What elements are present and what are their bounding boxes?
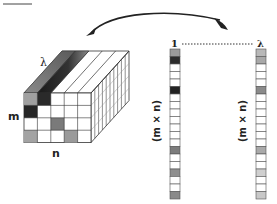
vector-cell <box>170 184 180 192</box>
vector-cell <box>256 79 266 87</box>
vector-cell <box>256 177 266 185</box>
vector-cell <box>256 132 266 140</box>
vector-cell <box>170 57 180 65</box>
vector-cell <box>256 49 266 57</box>
vector-cell <box>256 117 266 125</box>
vector-cell <box>256 169 266 177</box>
right-pixel-vector <box>256 49 266 199</box>
vector-cell <box>256 87 266 95</box>
cube-cols-label: n <box>52 147 60 160</box>
left-pixel-vector <box>170 49 180 199</box>
vector-cell <box>170 109 180 117</box>
left-vector-size-label: (m × n) <box>151 100 162 142</box>
vector-cell <box>170 64 180 72</box>
vector-cell <box>170 94 180 102</box>
right-vector-label: λ <box>257 38 264 49</box>
vector-cell <box>256 64 266 72</box>
vector-cell <box>170 177 180 185</box>
vector-cell <box>256 147 266 155</box>
vector-cell <box>256 139 266 147</box>
vector-cell <box>256 102 266 110</box>
vector-cell <box>256 184 266 192</box>
vector-cell <box>256 162 266 170</box>
vector-cell <box>256 109 266 117</box>
cube-depth-label: λ <box>40 56 47 69</box>
vector-cell <box>170 192 180 200</box>
transform-arrow <box>86 13 228 36</box>
vector-cell <box>170 49 180 57</box>
vector-cell <box>256 154 266 162</box>
cube-rows-label: m <box>8 110 19 123</box>
vector-cell <box>170 169 180 177</box>
vector-cell <box>256 94 266 102</box>
vector-cell <box>256 72 266 80</box>
vector-cell <box>170 79 180 87</box>
right-vector-size-label: (m × n) <box>237 100 248 142</box>
left-vector-label: 1 <box>171 38 178 49</box>
vector-cell <box>170 117 180 125</box>
vector-cell <box>170 132 180 140</box>
vector-cell <box>170 72 180 80</box>
vector-cell <box>170 124 180 132</box>
vector-cell <box>170 102 180 110</box>
diagram-canvas: λ m n 1 λ (m × n) (m × n) <box>0 0 277 204</box>
vector-cell <box>170 87 180 95</box>
vector-cell <box>256 124 266 132</box>
vector-cell <box>170 162 180 170</box>
vector-cell <box>170 147 180 155</box>
vector-cell <box>256 192 266 200</box>
vector-cell <box>170 139 180 147</box>
vector-cell <box>256 57 266 65</box>
vector-cell <box>170 154 180 162</box>
